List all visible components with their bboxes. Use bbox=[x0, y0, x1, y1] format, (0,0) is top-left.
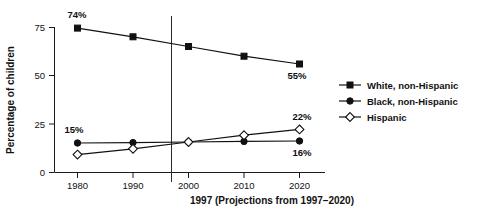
legend-item-white[interactable]: White, non-Hispanic bbox=[339, 80, 458, 91]
chart-legend: White, non-Hispanic Black, non-Hispanic … bbox=[339, 80, 458, 123]
y-tick-label-50: 50 bbox=[34, 70, 45, 81]
data-point-white-2000 bbox=[186, 44, 192, 50]
data-label-black-1980: 15% bbox=[64, 124, 84, 135]
series-hispanic: 22% bbox=[73, 111, 312, 159]
x-tick-label-1990: 1990 bbox=[122, 180, 143, 191]
data-point-hispanic-1990 bbox=[129, 144, 138, 153]
data-point-hispanic-1980 bbox=[73, 150, 82, 159]
data-point-white-2010 bbox=[241, 53, 247, 59]
legend-label-black: Black, non-Hispanic bbox=[367, 96, 458, 107]
data-label-white-1980: 74% bbox=[67, 9, 87, 20]
y-tick-label-25: 25 bbox=[34, 119, 45, 130]
x-axis-caption: 1997 (Projections from 1997–2020) bbox=[190, 195, 354, 206]
legend-label-hispanic: Hispanic bbox=[367, 112, 407, 123]
data-label-black-2020: 16% bbox=[292, 147, 312, 158]
data-point-hispanic-2000 bbox=[184, 138, 193, 147]
series-white-non-hispanic: 74% 55% bbox=[67, 9, 307, 81]
data-point-hispanic-2020 bbox=[295, 125, 304, 134]
data-label-hispanic-2020: 22% bbox=[292, 111, 312, 122]
data-point-black-1980 bbox=[74, 140, 80, 146]
filled-square-icon bbox=[347, 82, 353, 88]
data-label-white-2020: 55% bbox=[287, 70, 307, 81]
y-axis-title: Percentage of children bbox=[5, 46, 16, 154]
y-axis-ticks: 75 50 25 0 bbox=[34, 22, 54, 178]
x-tick-label-2020: 2020 bbox=[289, 180, 310, 191]
legend-label-white: White, non-Hispanic bbox=[367, 80, 458, 91]
legend-item-black[interactable]: Black, non-Hispanic bbox=[339, 96, 458, 107]
y-tick-label-0: 0 bbox=[40, 167, 45, 178]
x-tick-label-2010: 2010 bbox=[233, 180, 254, 191]
x-tick-label-1980: 1980 bbox=[67, 180, 88, 191]
chart-figure: 75 50 25 0 Percentage of children 1980 1… bbox=[0, 0, 480, 222]
x-tick-label-2000: 2000 bbox=[178, 180, 199, 191]
data-point-hispanic-2010 bbox=[240, 131, 249, 140]
data-point-white-1990 bbox=[130, 34, 136, 40]
filled-circle-icon bbox=[347, 98, 353, 104]
data-point-black-2020 bbox=[296, 138, 302, 144]
y-tick-label-75: 75 bbox=[34, 22, 45, 33]
x-axis-ticks: 1980 1990 2000 2010 2020 bbox=[67, 173, 310, 192]
data-point-white-1980 bbox=[75, 25, 81, 31]
line-chart-canvas: 75 50 25 0 Percentage of children 1980 1… bbox=[0, 0, 480, 222]
legend-item-hispanic[interactable]: Hispanic bbox=[339, 112, 407, 123]
open-diamond-icon bbox=[346, 113, 355, 122]
data-point-white-2020 bbox=[297, 61, 303, 67]
